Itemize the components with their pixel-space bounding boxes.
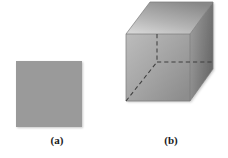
panel-a-square: (a) [0, 0, 114, 158]
caption-a: (a) [0, 134, 114, 146]
square-shape [16, 61, 82, 127]
caption-b: (b) [114, 134, 228, 146]
cube-shape [114, 0, 228, 135]
front-face [126, 34, 190, 101]
panel-b-cube: (b) [114, 0, 228, 158]
figure-root: (a) [0, 0, 228, 158]
